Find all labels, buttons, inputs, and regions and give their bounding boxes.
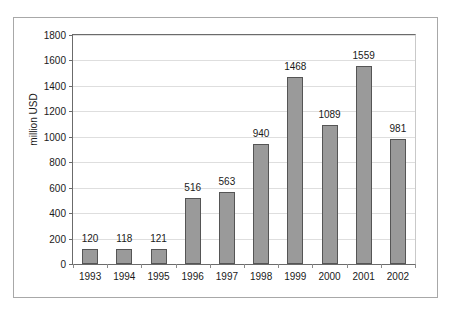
bar-value-label: 563 bbox=[219, 176, 236, 187]
x-tick-label: 2002 bbox=[387, 271, 409, 282]
bar[interactable] bbox=[82, 249, 98, 264]
x-tick-mark bbox=[312, 264, 313, 268]
bar[interactable] bbox=[390, 139, 406, 264]
y-tick-mark bbox=[69, 239, 73, 240]
bar[interactable] bbox=[151, 249, 167, 264]
bar-value-label: 1089 bbox=[318, 109, 340, 120]
chart-frame: million USD 0200400600800100012001400160… bbox=[13, 17, 438, 298]
bar[interactable] bbox=[253, 144, 269, 264]
x-tick-label: 2001 bbox=[353, 271, 375, 282]
y-tick-mark bbox=[69, 137, 73, 138]
y-tick-label: 1400 bbox=[44, 80, 66, 91]
bar-value-label: 120 bbox=[82, 233, 99, 244]
y-tick-label: 1800 bbox=[44, 30, 66, 41]
x-tick-mark bbox=[347, 264, 348, 268]
y-tick-label: 600 bbox=[49, 182, 66, 193]
y-tick-mark bbox=[69, 35, 73, 36]
y-tick-label: 200 bbox=[49, 233, 66, 244]
x-tick-mark bbox=[73, 264, 74, 268]
bar-value-label: 121 bbox=[150, 233, 167, 244]
y-tick-label: 400 bbox=[49, 208, 66, 219]
bar-value-label: 940 bbox=[253, 128, 270, 139]
bar-value-label: 1468 bbox=[284, 61, 306, 72]
y-tick-label: 0 bbox=[60, 259, 66, 270]
plot-area: 020040060080010001200140016001800 120118… bbox=[72, 34, 416, 265]
x-tick-mark bbox=[210, 264, 211, 268]
bar[interactable] bbox=[322, 125, 338, 264]
y-tick-mark bbox=[69, 162, 73, 163]
y-tick-mark bbox=[69, 213, 73, 214]
x-tick-label: 2000 bbox=[318, 271, 340, 282]
bar-value-label: 118 bbox=[116, 233, 132, 244]
x-tick-label: 1993 bbox=[79, 271, 101, 282]
y-tick-mark bbox=[69, 111, 73, 112]
bar[interactable] bbox=[287, 77, 303, 264]
x-tick-label: 1996 bbox=[182, 271, 204, 282]
x-tick-label: 1995 bbox=[147, 271, 169, 282]
bar[interactable] bbox=[185, 198, 201, 264]
y-tick-mark bbox=[69, 60, 73, 61]
bar[interactable] bbox=[219, 192, 235, 264]
y-axis-title: million USD bbox=[28, 75, 39, 165]
x-tick-mark bbox=[176, 264, 177, 268]
y-tick-mark bbox=[69, 188, 73, 189]
y-tick-label: 800 bbox=[49, 157, 66, 168]
x-tick-mark bbox=[381, 264, 382, 268]
y-tick-mark bbox=[69, 86, 73, 87]
x-tick-mark bbox=[244, 264, 245, 268]
y-tick-label: 1600 bbox=[44, 55, 66, 66]
x-tick-label: 1998 bbox=[250, 271, 272, 282]
bar-value-label: 516 bbox=[184, 182, 201, 193]
y-tick-label: 1000 bbox=[44, 131, 66, 142]
x-tick-label: 1994 bbox=[113, 271, 135, 282]
x-tick-mark bbox=[278, 264, 279, 268]
bar-value-label: 1559 bbox=[353, 50, 375, 61]
x-tick-label: 1999 bbox=[284, 271, 306, 282]
x-tick-mark bbox=[107, 264, 108, 268]
x-tick-mark bbox=[415, 264, 416, 268]
gridline bbox=[73, 35, 415, 36]
bar[interactable] bbox=[116, 249, 132, 264]
bar-value-label: 981 bbox=[390, 123, 407, 134]
bar[interactable] bbox=[356, 66, 372, 264]
y-tick-label: 1200 bbox=[44, 106, 66, 117]
x-tick-label: 1997 bbox=[216, 271, 238, 282]
x-tick-mark bbox=[141, 264, 142, 268]
